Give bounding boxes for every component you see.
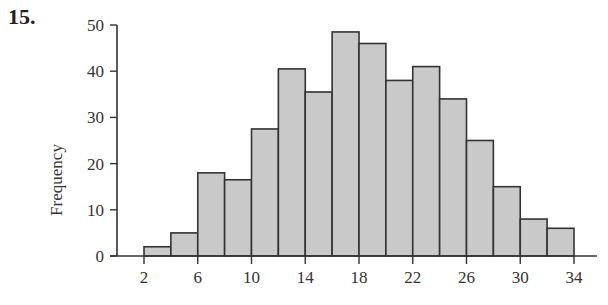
x-tick-label: 26 — [458, 268, 475, 287]
y-tick-label: 20 — [87, 155, 104, 174]
x-tick-label: 10 — [243, 268, 260, 287]
y-tick-label: 40 — [87, 62, 104, 81]
histogram-bar — [359, 43, 386, 256]
x-axis-ticks: 2610141822263034 — [140, 256, 583, 287]
histogram-bar — [198, 173, 225, 256]
y-tick-label: 10 — [87, 201, 104, 220]
histogram-bar — [171, 233, 198, 256]
histogram-bar — [547, 228, 574, 256]
x-tick-label: 14 — [297, 268, 315, 287]
histogram-chart: 01020304050 2610141822263034 Frequency — [0, 0, 608, 305]
histogram-bar — [332, 32, 359, 256]
histogram-bar — [144, 247, 171, 256]
histogram-bars — [144, 32, 574, 256]
histogram-bar — [467, 141, 494, 257]
histogram-bar — [386, 80, 413, 256]
y-axis-label: Frequency — [47, 144, 66, 216]
y-tick-label: 0 — [96, 247, 105, 266]
x-tick-label: 22 — [404, 268, 421, 287]
x-tick-label: 34 — [566, 268, 584, 287]
histogram-bar — [413, 67, 440, 256]
histogram-bar — [252, 129, 279, 256]
histogram-bar — [520, 219, 547, 256]
y-axis-ticks: 01020304050 — [87, 16, 117, 266]
histogram-bar — [440, 99, 467, 256]
histogram-bar — [493, 187, 520, 256]
histogram-bar — [278, 69, 305, 256]
histogram-bar — [225, 180, 252, 256]
y-tick-label: 30 — [87, 108, 104, 127]
x-tick-label: 2 — [140, 268, 149, 287]
y-tick-label: 50 — [87, 16, 104, 35]
x-tick-label: 30 — [512, 268, 529, 287]
x-tick-label: 18 — [351, 268, 368, 287]
x-tick-label: 6 — [194, 268, 203, 287]
histogram-bar — [305, 92, 332, 256]
